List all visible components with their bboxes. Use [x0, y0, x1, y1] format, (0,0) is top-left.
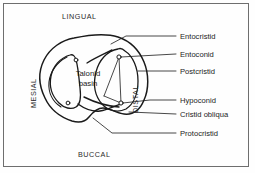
orientation-label-lingual: LINGUAL — [62, 12, 97, 21]
orientation-label-buccal: BUCCAL — [78, 150, 110, 159]
hypoconid-crest-short — [104, 96, 121, 103]
cristid-obliqua-crest — [84, 97, 119, 107]
protocristid-crest — [87, 50, 112, 63]
callout-label-hypoconid: Hypoconid — [180, 96, 216, 105]
leader-entocristid — [111, 36, 176, 44]
tooth-diagram-artwork — [0, 0, 255, 173]
hypoconid-cusp-marker — [119, 101, 123, 105]
metaconid-cusp-marker — [66, 101, 70, 105]
callout-label-cristid-obliqua: Cristid obliqua — [180, 110, 228, 119]
talonid-basin-line2: basin — [64, 79, 112, 89]
buccal-fold-contour — [78, 104, 121, 111]
protoconid-cusp-marker — [74, 58, 78, 62]
tooth-anatomy-figure: LINGUAL BUCCAL MESIAL DISTAL Talonid bas… — [0, 0, 255, 173]
postcristid-crest — [119, 57, 121, 103]
orientation-label-mesial: MESIAL — [29, 78, 38, 108]
callout-label-entocristid: Entocristid — [180, 32, 215, 41]
entoconid-cusp-marker — [117, 55, 121, 59]
talonid-basin-label: Talonid basin — [64, 69, 112, 89]
callout-label-entoconid: Entoconid — [180, 50, 214, 59]
callout-label-postcristid: Postcristid — [180, 67, 215, 76]
callout-label-protocristid: Protocristid — [180, 129, 218, 138]
orientation-label-distal: DISTAL — [131, 85, 140, 113]
leader-protocristid — [93, 118, 176, 133]
talonid-basin-line1: Talonid — [64, 69, 112, 79]
